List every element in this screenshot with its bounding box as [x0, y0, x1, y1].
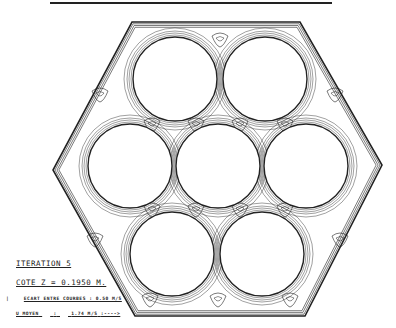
mean-velocity-label: U MOYEN : 1.74 M/S :---->	[16, 311, 120, 316]
iteration-label: ITERATION 5	[16, 259, 71, 268]
rod-7	[220, 212, 304, 296]
cote-label: COTE Z = 0.1950 M.	[16, 278, 106, 287]
contour-spacing-marker: |	[6, 296, 9, 301]
rod-2	[223, 37, 307, 121]
rod-6	[130, 212, 214, 296]
mean-velocity-name: U MOYEN	[16, 311, 39, 316]
mean-velocity-value: 1.74 M/S	[71, 311, 97, 316]
rod-4	[176, 124, 260, 208]
subchannel-isoline-inner	[214, 297, 222, 302]
rod-3	[88, 124, 172, 208]
subchannel-isoline	[210, 293, 226, 307]
rod-5	[264, 124, 348, 208]
subchannel-isoline-inner	[216, 37, 224, 42]
subchannel-isoline-inner	[96, 92, 104, 97]
velocity-arrow-icon: :---->	[101, 311, 121, 316]
contour-spacing-text: ECART ENTRE COURBES : 0.50 M/S	[24, 296, 122, 301]
contour-spacing-label: | ECART ENTRE COURBES : 0.50 M/S	[6, 296, 122, 301]
mean-velocity-sep: :	[53, 311, 56, 316]
subchannel-isoline-inner	[286, 297, 294, 302]
subchannel-isoline	[212, 33, 228, 47]
rod-1	[133, 37, 217, 121]
